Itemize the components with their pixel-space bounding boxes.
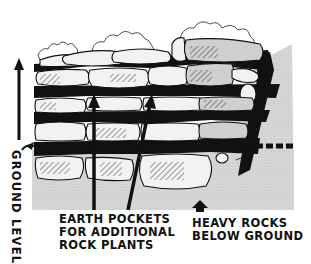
ground-level-arrow (14, 58, 34, 150)
earth-pockets-label-line-3: ROCK PLANTS (59, 239, 175, 252)
earth-pockets-label: EARTH POCKETS FOR ADDITIONAL ROCK PLANTS (59, 213, 175, 252)
heavy-rocks-label: HEAVY ROCKS BELOW GROUND (192, 217, 303, 243)
heavy-rocks-label-line-2: BELOW GROUND (192, 230, 303, 243)
ground-level-label: GROUND LEVEL (9, 150, 22, 264)
